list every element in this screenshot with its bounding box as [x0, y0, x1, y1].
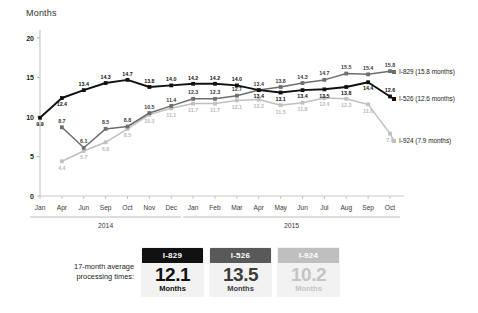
data-point [366, 102, 370, 106]
data-label: 11.6 [363, 108, 373, 114]
data-label: 13.4 [297, 93, 307, 99]
period-label: 2014 [98, 222, 113, 229]
data-point [191, 97, 195, 101]
chart-page: Months 05101520JanAprJunSepOctNovDecJanF… [0, 0, 478, 313]
data-point [366, 80, 370, 84]
data-point [279, 103, 283, 107]
data-point [82, 146, 86, 150]
data-label: 14.2 [210, 75, 220, 81]
data-label: 6.1 [80, 138, 87, 144]
x-tick-label: Mar [231, 204, 243, 211]
x-tick-label: Apr [254, 204, 265, 212]
data-label: 10.3 [144, 118, 154, 124]
period-label: 2015 [284, 222, 299, 229]
legend-marker [392, 70, 396, 74]
data-point [147, 111, 151, 115]
data-point [126, 78, 130, 82]
data-label: 14.2 [188, 75, 198, 81]
legend-marker [392, 139, 396, 143]
data-point [191, 82, 195, 86]
summary-card-value: 12.1 [142, 264, 203, 285]
data-point [344, 97, 348, 101]
data-point [104, 127, 108, 131]
data-label: 14.0 [232, 76, 242, 82]
legend-label-i-829: I-829 (15.8 months) [399, 68, 455, 76]
summary-card-unit: Months [210, 284, 271, 293]
summary-card-value: 10.2 [278, 264, 339, 285]
data-point [60, 125, 64, 129]
data-label: 12.1 [232, 104, 242, 110]
data-label: 11.7 [188, 107, 198, 113]
summary-card-i526: I-526 13.5 Months [210, 248, 271, 296]
data-label: 15.5 [341, 64, 351, 70]
data-label: 11.7 [210, 107, 220, 113]
data-point [366, 72, 370, 76]
x-tick-label: Dec [165, 204, 177, 211]
data-label: 8.8 [124, 117, 131, 123]
legend-label-i-924: I-924 (7.9 months) [399, 137, 451, 145]
summary-card-body: 10.2 Months [278, 263, 339, 296]
data-point [169, 104, 173, 108]
x-tick-label: Jun [78, 204, 89, 211]
summary-card-title: I-924 [278, 248, 339, 263]
data-label: 11.8 [297, 106, 307, 112]
y-tick-label: 0 [30, 193, 34, 200]
summary-card-i924: I-924 10.2 Months [278, 248, 339, 296]
data-point [213, 97, 217, 101]
data-label: 12.6 [385, 87, 395, 93]
x-tick-label: Jun [297, 204, 308, 211]
data-label: 14.7 [122, 71, 132, 77]
data-label: 11.1 [166, 112, 176, 118]
data-label: 13.8 [275, 78, 285, 84]
data-point [38, 116, 42, 120]
data-point [279, 91, 283, 95]
data-point [82, 88, 86, 92]
data-label: 10.5 [144, 104, 154, 110]
x-tick-label: Sep [362, 204, 374, 212]
data-point [104, 81, 108, 85]
data-point [213, 102, 217, 106]
data-label: 14.0 [166, 76, 176, 82]
data-label: 12.3 [210, 89, 220, 95]
data-point [147, 85, 151, 89]
data-label: 14.7 [319, 70, 329, 76]
legend-marker [392, 97, 396, 101]
data-label: 14.3 [297, 74, 307, 80]
data-point [235, 84, 239, 88]
data-label: 11.4 [166, 97, 176, 103]
y-tick-label: 15 [26, 74, 34, 81]
data-label: 14.3 [100, 74, 110, 80]
data-label: 4.4 [58, 165, 65, 171]
summary-card-unit: Months [278, 284, 339, 293]
data-point [126, 125, 130, 129]
data-label: 13.8 [144, 78, 154, 84]
y-tick-label: 10 [26, 114, 34, 121]
data-point [235, 99, 239, 103]
x-tick-label: Jan [188, 204, 199, 211]
data-point [344, 72, 348, 76]
line-chart: 05101520JanAprJunSepOctNovDecJanFebMarAp… [0, 0, 478, 246]
data-point [344, 85, 348, 89]
x-tick-label: Jul [320, 204, 329, 211]
data-point [322, 78, 326, 82]
data-point [235, 94, 239, 98]
summary-card-body: 13.5 Months [210, 263, 271, 296]
x-tick-label: Apr [57, 204, 68, 212]
data-point [257, 88, 261, 92]
x-tick-label: Nov [144, 204, 156, 211]
data-label: 11.5 [276, 109, 286, 115]
x-tick-label: Aug [340, 204, 352, 212]
x-tick-label: May [274, 204, 287, 212]
data-point [169, 84, 173, 88]
x-tick-label: Jan [35, 204, 46, 211]
summary-label: 17-month average processing times: [52, 262, 142, 282]
data-label: 13.1 [275, 96, 285, 102]
summary-label-line1: 17-month average [52, 262, 134, 272]
data-point [104, 140, 108, 144]
data-point [301, 81, 305, 85]
summary-card-body: 12.1 Months [142, 263, 203, 296]
y-tick-label: 5 [30, 153, 34, 160]
data-label: 12.4 [319, 101, 329, 107]
summary-card-title: I-526 [210, 248, 271, 263]
data-label: 12.3 [341, 102, 351, 108]
